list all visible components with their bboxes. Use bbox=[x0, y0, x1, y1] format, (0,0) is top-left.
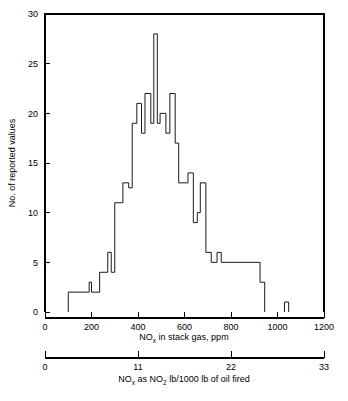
y-axis-ticks bbox=[45, 14, 50, 312]
x-axis-title: NOx in stack gas, ppm bbox=[139, 332, 228, 344]
sec-title-rest: lb/1000 lb of oil fired bbox=[167, 374, 250, 384]
y-tick-label: 20 bbox=[28, 109, 38, 119]
y-tick-label: 10 bbox=[28, 208, 38, 218]
x-tick-label: 800 bbox=[223, 322, 238, 332]
histogram-figure: 051015202530 020040060080010001200 01122… bbox=[0, 0, 348, 401]
x-axis-tick-labels: 020040060080010001200 bbox=[42, 322, 334, 332]
y-tick-label: 5 bbox=[33, 258, 38, 268]
y-tick-label: 15 bbox=[28, 158, 38, 168]
secondary-axis-title: NOx as NO2 lb/1000 lb of oil fired bbox=[118, 374, 249, 386]
secondary-tick-label: 33 bbox=[319, 362, 329, 372]
y-tick-label: 25 bbox=[28, 59, 38, 69]
secondary-tick-label: 11 bbox=[133, 362, 142, 372]
x-tick-label: 400 bbox=[130, 322, 145, 332]
secondary-axis-tick-labels: 0112233 bbox=[42, 362, 329, 372]
y-tick-label: 0 bbox=[33, 307, 38, 317]
chart-canvas: 051015202530 020040060080010001200 01122… bbox=[0, 0, 348, 401]
x-tick-label: 200 bbox=[84, 322, 99, 332]
histogram-outline bbox=[68, 34, 288, 312]
plot-frame bbox=[45, 14, 324, 312]
x-tick-label: 0 bbox=[42, 322, 47, 332]
x-tick-label: 1200 bbox=[314, 322, 334, 332]
secondary-tick-label: 0 bbox=[42, 362, 47, 372]
x-axis-title-rest: in stack gas, ppm bbox=[156, 332, 229, 342]
y-tick-label: 30 bbox=[28, 9, 38, 19]
x-tick-label: 600 bbox=[177, 322, 192, 332]
secondary-axis-ticks bbox=[45, 351, 324, 358]
sec-title-nox: NO bbox=[118, 374, 132, 384]
x-axis-ticks bbox=[45, 312, 324, 318]
x-tick-label: 1000 bbox=[267, 322, 287, 332]
y-axis-tick-labels: 051015202530 bbox=[28, 9, 38, 317]
sec-title-as-no: as NO bbox=[135, 374, 163, 384]
x-axis-title-nox: NO bbox=[139, 332, 153, 342]
secondary-tick-label: 22 bbox=[226, 362, 236, 372]
y-axis-title: No. of reported values bbox=[7, 118, 17, 207]
